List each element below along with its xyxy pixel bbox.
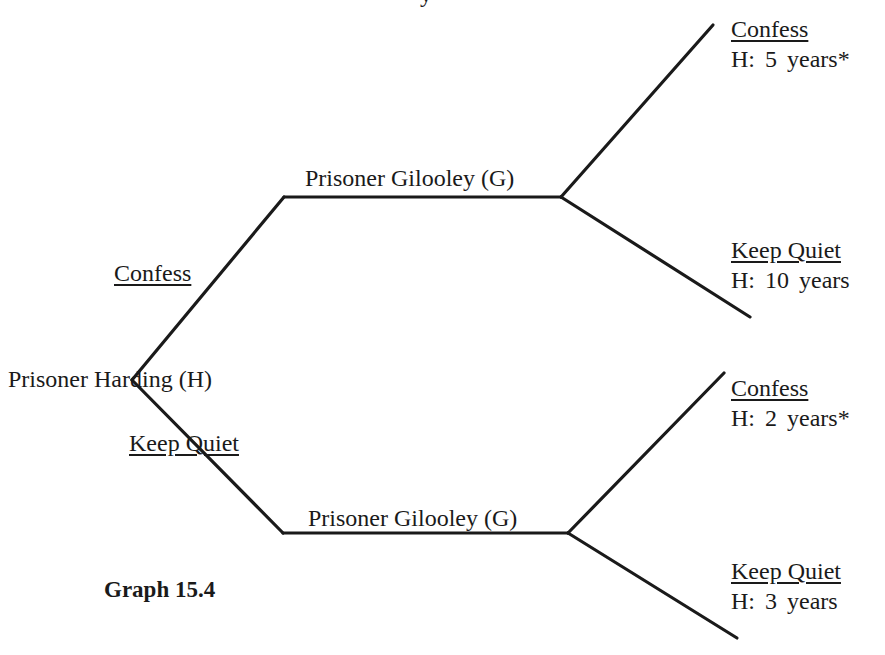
edge-harding-keep-quiet: [132, 380, 283, 533]
outcome-payoff: H: 5 years*: [731, 44, 850, 74]
branch-label-confess: Confess: [114, 260, 191, 286]
edge-lower-confess: [568, 373, 724, 533]
game-tree-diagram: y Prisoner Harding (H) Confess Keep Quie…: [0, 0, 885, 655]
lower-gilooley-node-label: Prisoner Gilooley (G): [308, 505, 517, 531]
outcome-payoff: H: 10 years: [731, 265, 850, 295]
edge-lower-keep-quiet: [568, 533, 737, 638]
outcome-upper-keep-quiet: Keep Quiet H: 10 years: [731, 235, 850, 295]
edge-upper-confess: [561, 25, 713, 197]
outcome-payoff: H: 2 years*: [731, 403, 850, 433]
edge-upper-keep-quiet: [561, 197, 750, 317]
outcome-upper-confess: Confess H: 5 years*: [731, 14, 850, 74]
outcome-action: Confess: [731, 14, 850, 44]
root-node-label: Prisoner Harding (H): [8, 366, 212, 392]
branch-label-keep-quiet: Keep Quiet: [129, 430, 239, 456]
edge-harding-confess: [132, 197, 284, 380]
outcome-payoff: H: 3 years: [731, 586, 841, 616]
upper-gilooley-node-label: Prisoner Gilooley (G): [305, 165, 514, 191]
outcome-lower-keep-quiet: Keep Quiet H: 3 years: [731, 556, 841, 616]
graph-caption: Graph 15.4: [104, 577, 215, 603]
outcome-action: Confess: [731, 373, 850, 403]
outcome-lower-confess: Confess H: 2 years*: [731, 373, 850, 433]
outcome-action: Keep Quiet: [731, 556, 841, 586]
outcome-action: Keep Quiet: [731, 235, 850, 265]
